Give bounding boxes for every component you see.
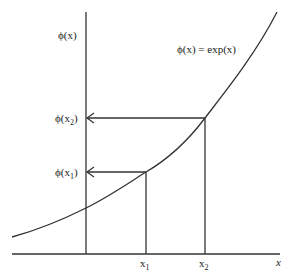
x1-label: x1 [140, 257, 150, 272]
phi-x2-label: ϕ(x2) [55, 112, 78, 127]
curve-label: ϕ(x) = exp(x) [177, 43, 236, 56]
exp-function-diagram: ϕ(x) ϕ(x) = exp(x) ϕ(x2) ϕ(x1) x1 x2 x [0, 0, 293, 279]
x-axis-label: x [275, 256, 281, 268]
x2-label: x2 [199, 257, 209, 272]
y-axis-label: ϕ(x) [58, 29, 77, 42]
exp-curve [12, 12, 277, 237]
phi-x1-label: ϕ(x1) [55, 166, 78, 181]
